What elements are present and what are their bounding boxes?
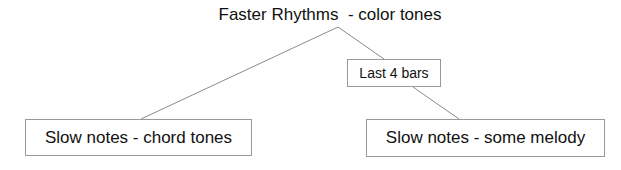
root-node-title: Faster Rhythms - color tones [185,5,475,25]
node-label: Slow notes - chord tones [45,128,232,148]
node-slow-notes-some-melody: Slow notes - some melody [366,119,605,157]
edge-root-to-chord [141,27,338,119]
node-slow-notes-chord-tones: Slow notes - chord tones [25,119,252,156]
edge-root-to-last4 [338,27,384,59]
node-last-4-bars: Last 4 bars [347,59,441,87]
node-label: Last 4 bars [359,65,428,81]
diagram-canvas: Faster Rhythms - color tones Last 4 bars… [0,0,621,170]
node-label: Slow notes - some melody [386,128,585,148]
edge-last4-to-melody [413,87,459,119]
